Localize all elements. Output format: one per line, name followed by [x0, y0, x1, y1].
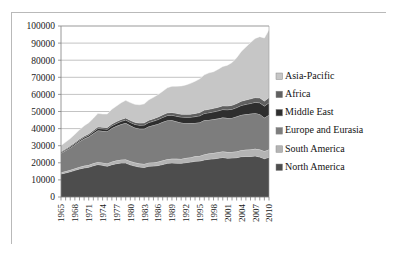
legend-label-africa: Africa: [285, 88, 311, 99]
x-axis-tick-label: 1998: [209, 204, 219, 223]
legend-swatch-middle-east: [276, 109, 283, 116]
legend-label-asia-pacific: Asia-Pacific: [285, 70, 335, 81]
chart-frame: 0100002000030000400005000060000700008000…: [11, 12, 386, 244]
legend-swatch-asia-pacific: [276, 73, 283, 80]
legend-label-europe-and-eurasia: Europe and Eurasia: [285, 124, 364, 135]
x-axis-tick-label: 1983: [140, 204, 150, 223]
x-axis-tick-label: 1980: [126, 204, 136, 223]
y-axis-tick-label: 10000: [31, 175, 55, 185]
y-axis-tick-label: 30000: [31, 141, 55, 151]
x-axis-tick-label: 2001: [223, 204, 233, 222]
y-axis-tick-label: 20000: [31, 158, 55, 168]
legend-label-middle-east: Middle East: [285, 106, 334, 117]
x-axis-tick-label: 1986: [153, 204, 163, 223]
y-axis-tick-label: 100000: [27, 21, 56, 31]
legend-label-south-america: South America: [285, 143, 345, 154]
legend-swatch-europe-and-eurasia: [276, 128, 283, 135]
legend-swatch-north-america: [276, 164, 283, 171]
x-axis-tick-label: 2004: [237, 204, 247, 223]
y-axis-tick-label: 40000: [31, 124, 55, 134]
y-axis-tick-label: 70000: [31, 73, 55, 83]
y-axis-tick-label: 90000: [31, 39, 55, 49]
y-axis-tick-label: 0: [50, 192, 55, 202]
x-axis-tick-label: 1974: [98, 204, 108, 223]
x-axis-tick-label: 1995: [195, 204, 205, 223]
x-axis-tick-label: 1971: [84, 204, 94, 222]
x-axis-tick-label: 2007: [251, 204, 261, 223]
stacked-area-chart: 0100002000030000400005000060000700008000…: [12, 13, 387, 245]
x-axis-tick-label: 1992: [181, 204, 191, 222]
x-axis-tick-label: 1989: [167, 204, 177, 223]
y-axis-tick-label: 80000: [31, 56, 55, 66]
x-axis-tick-label: 2010: [264, 204, 274, 223]
y-axis-tick-label: 60000: [31, 90, 55, 100]
legend-swatch-africa: [276, 91, 283, 98]
legend-label-north-america: North America: [285, 161, 345, 172]
x-axis-tick-label: 1977: [112, 204, 122, 223]
y-axis-tick-label: 50000: [31, 107, 55, 117]
x-axis-tick-label: 1968: [70, 204, 80, 223]
x-axis-tick-label: 1965: [56, 204, 66, 223]
legend-swatch-south-america: [276, 146, 283, 153]
